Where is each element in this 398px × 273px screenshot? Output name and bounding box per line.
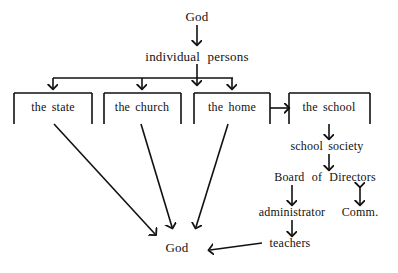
diagram-canvas: God individual persons the state the chu… [0, 0, 398, 273]
node-teachers: teachers [270, 237, 311, 249]
node-the-home: the home [208, 101, 256, 113]
edge-state-to-god [54, 124, 155, 234]
edge-home-to-god [196, 124, 228, 227]
node-individual-persons: individual persons [145, 50, 248, 63]
node-the-church: the church [115, 101, 169, 113]
edge-teachers-to-god [210, 243, 262, 250]
node-board-of-directors: Board of Directors [274, 171, 376, 183]
node-school-society: school society [290, 140, 363, 152]
node-administrator: administrator [259, 206, 326, 218]
edge-church-to-god [141, 124, 172, 227]
node-god-top: God [186, 10, 209, 23]
node-comm: Comm. [342, 206, 379, 218]
diagram-connectors [0, 0, 398, 273]
node-the-school: the school [303, 101, 356, 113]
node-god-bottom: God [166, 241, 189, 254]
node-the-state: the state [31, 101, 74, 113]
